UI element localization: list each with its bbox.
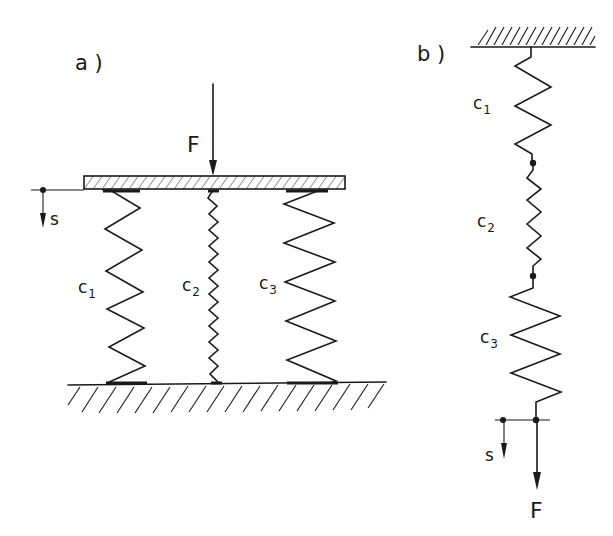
force-arrow-b — [533, 420, 541, 490]
force-label-b: F — [530, 500, 543, 522]
ceiling-b — [471, 27, 595, 47]
spring-label-c3-a: c3 — [259, 275, 276, 292]
spring-c1-a — [103, 190, 145, 383]
displacement-label-b: s — [485, 447, 494, 464]
spring-c1-b — [515, 47, 551, 163]
force-arrow-a — [209, 84, 217, 176]
spring-label-c1-a: c1 — [78, 279, 95, 296]
spring-c2-b — [527, 163, 541, 276]
load-plate — [84, 176, 345, 189]
displacement-indicator-b — [495, 417, 550, 459]
spring-label-c2-b: c2 — [477, 213, 494, 230]
spring-c3-b — [510, 276, 561, 420]
ground-a — [68, 382, 386, 413]
panel-a-parallel — [31, 84, 386, 413]
displacement-label-a: s — [50, 211, 59, 228]
spring-label-c1-b: c1 — [473, 95, 490, 112]
spring-label-c2-a: c2 — [182, 277, 199, 294]
spring-label-c3-b: c3 — [480, 329, 497, 346]
spring-c3-a — [284, 190, 336, 383]
spring-c2-a — [208, 190, 219, 383]
panel-a-label: a ) — [75, 53, 103, 74]
panel-b-label: b ) — [417, 44, 445, 65]
force-label-a: F — [187, 134, 200, 156]
spring-diagram — [0, 0, 613, 536]
